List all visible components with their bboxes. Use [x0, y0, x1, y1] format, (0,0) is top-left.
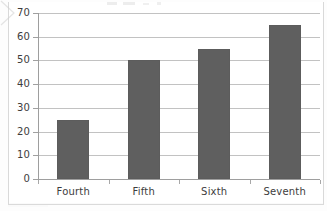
x-tick-label-fifth: Fifth: [104, 187, 184, 197]
y-tick-mark-50: [33, 60, 38, 61]
y-tick-mark-70: [33, 13, 38, 14]
x-tick-mark-1: [109, 180, 110, 184]
y-tick-label-60: 60: [0, 32, 30, 42]
x-tick-mark-4: [320, 180, 321, 184]
y-tick-label-10: 10: [0, 150, 30, 160]
x-tick-label-sixth: Sixth: [174, 187, 254, 197]
x-tick-label-fourth: Fourth: [33, 187, 113, 197]
y-tick-label-70: 70: [0, 8, 30, 18]
y-tick-label-20: 20: [0, 127, 30, 137]
y-tick-mark-30: [33, 108, 38, 109]
y-tick-label-0: 0: [0, 174, 30, 184]
y-axis-labels: 010203040506070: [0, 0, 327, 211]
y-tick-label-30: 30: [0, 103, 30, 113]
x-tick-mark-0: [38, 180, 39, 184]
chart-figure: 010203040506070 FourthFifthSixthSeventh: [0, 0, 327, 211]
y-tick-mark-20: [33, 132, 38, 133]
x-tick-mark-2: [179, 180, 180, 184]
x-tick-label-seventh: Seventh: [245, 187, 325, 197]
y-tick-label-40: 40: [0, 79, 30, 89]
y-tick-label-50: 50: [0, 55, 30, 65]
y-tick-mark-10: [33, 155, 38, 156]
y-tick-mark-60: [33, 37, 38, 38]
x-tick-mark-3: [250, 180, 251, 184]
y-tick-mark-40: [33, 84, 38, 85]
